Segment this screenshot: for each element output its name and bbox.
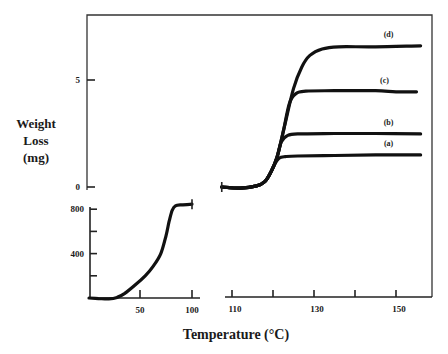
lower-x-tick-label: 50 — [136, 305, 146, 315]
y-axis-label-line-1: Weight — [16, 116, 56, 131]
tick-label-group: 0511013015040080050100 — [71, 75, 407, 315]
upper-x-tick-label: 150 — [392, 304, 406, 314]
curve-group — [89, 46, 421, 299]
curve-label-b: (b) — [384, 118, 394, 127]
y-axis-label-line-3: (mg) — [23, 150, 49, 165]
curve-label-c: (c) — [380, 76, 389, 85]
upper-y-tick-label: 0 — [76, 182, 81, 192]
upper-x-tick-label: 130 — [310, 304, 324, 314]
axes-frame — [87, 15, 432, 298]
upper-x-tick-label: 110 — [228, 304, 242, 314]
lower-y-tick-label: 400 — [71, 249, 85, 259]
curve-a — [222, 155, 421, 188]
curve-lower — [89, 204, 192, 299]
x-axis-label: Temperature (°C) — [183, 327, 290, 343]
upper-y-tick-label: 5 — [76, 75, 81, 85]
lower-y-tick-label: 800 — [71, 204, 85, 214]
y-axis-label-line-2: Loss — [23, 133, 48, 148]
lower-x-tick-label: 100 — [185, 305, 199, 315]
tga-chart: 0511013015040080050100 (a)(b)(c)(d) Weig… — [0, 0, 448, 354]
curve-label-a: (a) — [384, 139, 394, 148]
curve-label-d: (d) — [384, 30, 394, 39]
